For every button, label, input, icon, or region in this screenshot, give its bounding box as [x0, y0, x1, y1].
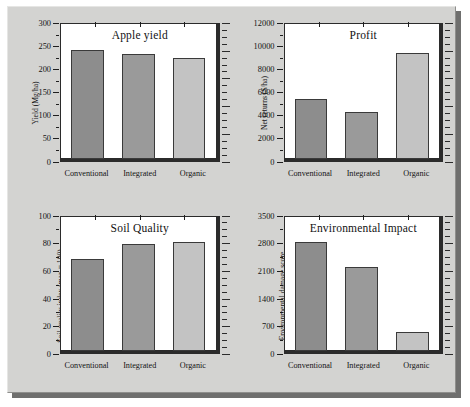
bar	[71, 259, 104, 351]
y-axis-tick-label: 2800	[258, 239, 275, 248]
right-axis-tick	[222, 44, 227, 45]
right-axis-tick	[445, 51, 453, 52]
x-axis-category-label: Conventional	[62, 361, 111, 370]
right-axis-tick	[222, 354, 230, 355]
y-axis-tick-label: 0	[47, 157, 51, 166]
right-axis-tick	[222, 340, 227, 341]
right-axis-tick	[445, 58, 450, 59]
bar	[345, 267, 378, 351]
right-axis-tick	[445, 71, 450, 72]
right-axis-tick	[222, 148, 227, 149]
y-axis-tick-label: 60	[43, 266, 51, 275]
right-axis-tick	[445, 347, 450, 348]
right-axis-tick	[222, 141, 227, 142]
right-axis-tick	[222, 99, 227, 100]
chart-panel-profit: Net returns ($/ha) Profit 02000400060008…	[232, 7, 456, 200]
right-axis-tick	[445, 148, 450, 149]
right-axis-tick	[445, 155, 450, 156]
figure-plate: Yield (Mg/ha) Apple yield 05010015020025…	[7, 6, 456, 393]
plot-shell: Profit 020004000600080001000012000	[284, 23, 444, 162]
y-axis-tick-label: 2100	[258, 266, 275, 275]
right-axis-tick	[445, 243, 453, 244]
right-axis-tick	[222, 319, 227, 320]
y-axis-tick	[53, 243, 59, 244]
right-axis-tick	[222, 236, 227, 237]
y-axis-minor-tick	[56, 127, 59, 128]
right-axis-tick	[222, 347, 227, 348]
right-axis-tick	[222, 134, 230, 135]
y-axis-tick-label: 0	[270, 350, 274, 359]
right-axis-tick	[445, 278, 450, 279]
y-axis-tick	[53, 23, 59, 24]
bar-series	[286, 25, 439, 159]
right-axis-tick	[445, 326, 453, 327]
right-axis-tick	[445, 92, 450, 93]
bar	[396, 332, 429, 351]
y-axis-minor-tick	[280, 58, 283, 59]
bar-series	[286, 218, 439, 352]
right-axis-tick	[445, 354, 453, 355]
bar	[173, 58, 206, 158]
y-axis-tick	[277, 69, 283, 70]
y-axis-tick-label: 50	[43, 134, 51, 143]
y-axis-title: Net returns ($/ha)	[260, 76, 269, 130]
x-axis-category-label: Integrated	[115, 169, 164, 178]
y-axis-tick	[53, 46, 59, 47]
x-axis-categories: ConventionalIntegratedOrganic	[284, 169, 444, 178]
x-axis-category-label: Conventional	[62, 169, 111, 178]
right-axis-tick	[445, 340, 450, 341]
plot-shell: Soil Quality 020406080100	[60, 216, 220, 355]
y-axis-tick-label: 4000	[258, 111, 275, 120]
y-axis-tick	[277, 271, 283, 272]
right-axis-tick	[445, 292, 450, 293]
right-axis-tick	[222, 299, 230, 300]
right-axis-tick	[445, 113, 450, 114]
y-axis-minor-tick	[280, 257, 283, 258]
bar	[71, 50, 104, 159]
bar	[345, 112, 378, 159]
chart-panel-environmental-impact: Environmental damage score Environmental…	[232, 200, 456, 393]
right-axis-tick	[445, 162, 453, 163]
right-axis-tick	[222, 71, 227, 72]
x-axis-category-label: Organic	[168, 361, 217, 370]
y-axis-tick-label: 250	[38, 42, 51, 51]
y-axis-minor-tick	[56, 312, 59, 313]
right-axis-tick	[445, 23, 453, 24]
y-axis-tick	[277, 138, 283, 139]
y-axis-tick-label: 100	[38, 111, 51, 120]
y-axis-minor-tick	[280, 81, 283, 82]
y-axis-tick-label: 150	[38, 88, 51, 97]
right-axis-tick	[222, 257, 227, 258]
right-axis-tick	[222, 106, 230, 107]
right-axis-tick	[222, 113, 227, 114]
right-axis-tick	[222, 333, 227, 334]
right-axis-tick	[222, 326, 230, 327]
y-axis-minor-tick	[280, 150, 283, 151]
right-axis-tick	[222, 30, 227, 31]
right-axis-tick	[222, 120, 227, 121]
x-axis-categories: ConventionalIntegratedOrganic	[284, 361, 444, 370]
right-axis-tick	[222, 312, 227, 313]
x-axis-category-label: Conventional	[285, 169, 334, 178]
bar-series	[62, 218, 215, 352]
x-axis-category-label: Conventional	[285, 361, 334, 370]
right-axis-tick	[222, 222, 227, 223]
right-axis-tick	[445, 236, 450, 237]
right-axis-tick	[222, 250, 227, 251]
plot-shell: Environmental Impact 0700140021002800350…	[284, 216, 444, 355]
y-axis-minor-tick	[56, 229, 59, 230]
right-axis-tick	[222, 306, 227, 307]
chart-panel-apple-yield: Yield (Mg/ha) Apple yield 05010015020025…	[8, 7, 232, 200]
right-axis-tick	[445, 134, 453, 135]
right-axis-tick	[222, 243, 230, 244]
y-axis: 07001400210028003500	[283, 216, 284, 355]
y-axis-tick	[53, 326, 59, 327]
y-axis-minor-tick	[280, 229, 283, 230]
right-axis-tick	[445, 271, 453, 272]
y-axis-tick-label: 6000	[258, 88, 275, 97]
y-axis-tick-label: 3500	[258, 211, 275, 220]
y-axis-tick	[277, 115, 283, 116]
right-axis-tick	[222, 155, 227, 156]
right-axis-tick	[445, 257, 450, 258]
y-axis-tick	[277, 354, 283, 355]
